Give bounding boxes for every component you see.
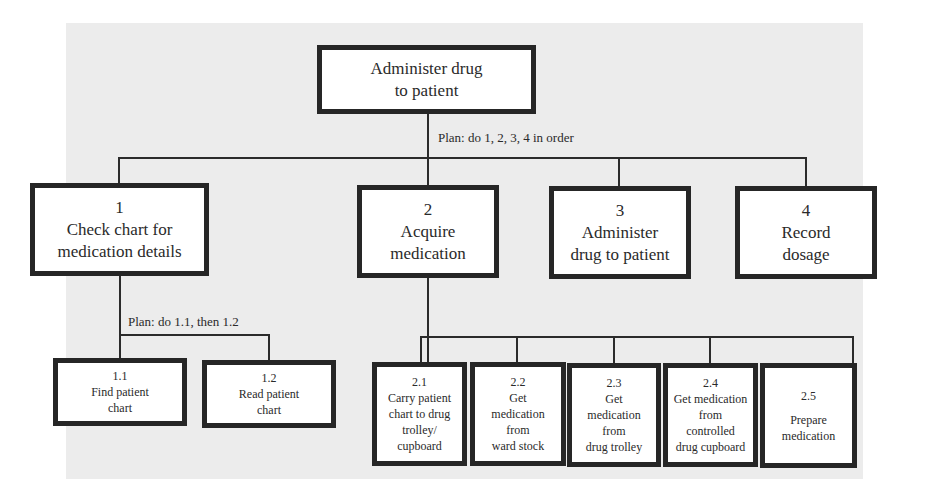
root-task-line2: to patient (395, 80, 459, 102)
task-label-line1: Acquire (401, 221, 456, 243)
subtask-id: 2.5 (801, 388, 816, 404)
subtask-label-line: ward stock (492, 438, 544, 454)
subtask-label-line1: Find patient (91, 384, 149, 400)
subtask-label-line: Carry patient (388, 390, 451, 406)
subtask-label-line2: chart (108, 400, 132, 416)
task1-plan-label: Plan: do 1.1, then 1.2 (128, 314, 239, 330)
root-task-line1: Administer drug (371, 58, 483, 80)
subtask-label-line: Get (509, 390, 526, 406)
connector-to-task-3 (618, 157, 620, 187)
task-id: 1 (115, 197, 124, 219)
subtask-label-line: from (602, 423, 625, 439)
subtask-id: 2.1 (412, 374, 427, 390)
connector-to-subtask-2-3 (613, 336, 615, 363)
connector-task2-down (427, 277, 429, 363)
task-label-line2: medication (390, 243, 466, 265)
subtask-label-line: cupboard (397, 438, 442, 454)
subtask-label-line: medication (587, 407, 640, 423)
connector-to-subtask-2-5 (852, 336, 854, 364)
subtask-box-2-2: 2.2 Get medication from ward stock (470, 362, 566, 466)
subtask-label-line: trolley/ (402, 422, 437, 438)
task-id: 2 (424, 199, 433, 221)
connector-to-subtask-1-2 (268, 334, 270, 361)
task-box-3: 3 Administer drug to patient (549, 186, 691, 279)
subtask-box-2-1: 2.1 Carry patient chart to drug trolley/… (372, 362, 467, 466)
subtask-label-line: Get (605, 391, 622, 407)
subtask-label-line: drug cupboard (676, 439, 746, 455)
task-label-line1: Administer (582, 222, 659, 244)
task-box-4: 4 Record dosage (735, 186, 877, 279)
subtask-label-line: medication (491, 406, 544, 422)
subtask-id: 1.1 (113, 368, 128, 384)
task-box-2: 2 Acquire medication (357, 185, 499, 278)
connector-root-down (427, 112, 429, 186)
subtask-label-line: controlled (686, 423, 735, 439)
connector-task1-down (119, 275, 121, 359)
task-id: 3 (616, 200, 625, 222)
task-label-line2: drug to patient (570, 244, 669, 266)
subtask-box-2-3: 2.3 Get medication from drug trolley (567, 363, 661, 467)
subtask-id: 2.3 (607, 375, 622, 391)
connector-task1-bar (119, 334, 270, 336)
root-plan-label: Plan: do 1, 2, 3, 4 in order (438, 130, 574, 146)
subtask-label-line: from (506, 422, 529, 438)
connector-to-subtask-2-1 (420, 336, 422, 363)
task-id: 4 (802, 200, 811, 222)
subtask-box-1-1: 1.1 Find patient chart (53, 358, 187, 426)
subtask-label-line: drug trolley (586, 439, 642, 455)
subtask-label-line2: chart (257, 402, 281, 418)
connector-to-subtask-2-2 (516, 336, 518, 363)
subtask-label-line: chart to drug (389, 406, 450, 422)
connector-task2-bar (420, 336, 854, 338)
connector-to-subtask-2-4 (709, 336, 711, 363)
root-task-box: Administer drug to patient (317, 45, 536, 114)
subtask-label-line1: Read patient (239, 386, 299, 402)
subtask-box-2-5: 2.5 Prepare medication (760, 363, 857, 468)
connector-to-task-1 (118, 157, 120, 184)
task-label-line1: Check chart for (67, 219, 173, 241)
subtask-box-1-2: 1.2 Read patient chart (202, 360, 336, 428)
subtask-label-line: Get medication (674, 391, 748, 407)
task-label-line2: medication details (57, 241, 181, 263)
connector-to-task-4 (805, 157, 807, 187)
connector-level1-bar (118, 157, 807, 159)
task-label-line1: Record (781, 222, 830, 244)
task-box-1: 1 Check chart for medication details (30, 183, 209, 276)
task-label-line2: dosage (782, 244, 829, 266)
subtask-id: 1.2 (262, 370, 277, 386)
subtask-id: 2.2 (511, 374, 526, 390)
subtask-label-line: Prepare (790, 412, 827, 428)
subtask-label-line: from (699, 407, 722, 423)
subtask-id: 2.4 (703, 375, 718, 391)
subtask-label-line: medication (782, 428, 835, 444)
subtask-box-2-4: 2.4 Get medication from controlled drug … (663, 363, 758, 467)
